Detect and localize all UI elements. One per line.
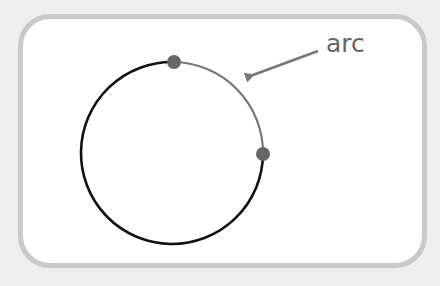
point-top: [167, 55, 181, 69]
circle-arc-diagram: arc: [0, 0, 440, 286]
point-right: [256, 147, 270, 161]
arc-label: arc: [326, 29, 365, 58]
highlighted-arc: [174, 62, 263, 154]
diagram-stage: arc: [0, 0, 440, 286]
annotation-arrow: [253, 51, 318, 75]
